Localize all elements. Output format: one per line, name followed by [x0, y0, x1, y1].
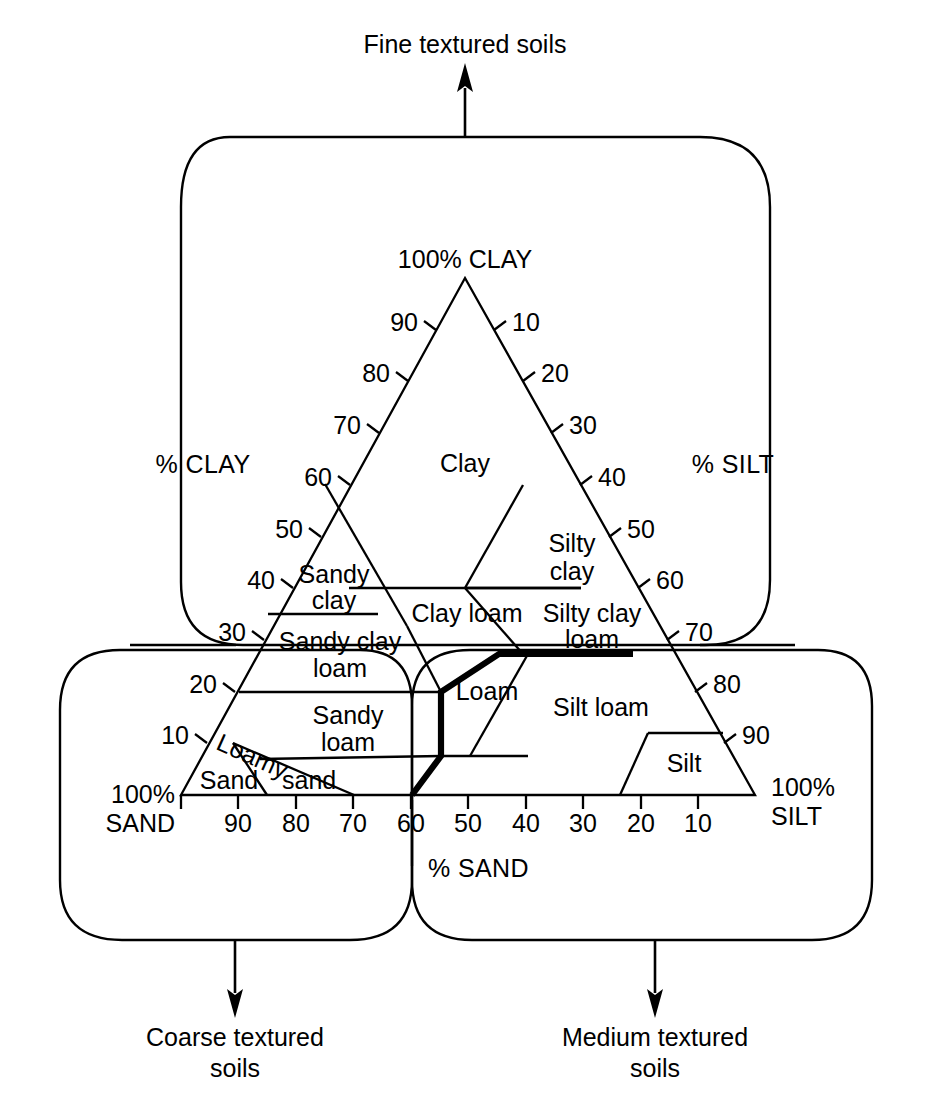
bottom-tick-label-50: 50 — [454, 809, 482, 837]
label-sandy-clay-2: clay — [312, 586, 357, 614]
label-sandy-clay-loam-2: loam — [313, 654, 367, 682]
highlighted-boundary — [412, 654, 633, 795]
callout-medium-1: Medium textured — [562, 1023, 748, 1051]
right-tick-label-40: 40 — [598, 463, 626, 491]
callout-coarse-2: soils — [210, 1054, 260, 1082]
bottom-tick-label-30: 30 — [569, 809, 597, 837]
left-tick-label-80: 80 — [362, 359, 390, 387]
apex-label: 100% CLAY — [398, 245, 533, 273]
label-sandy-clay-loam-1: Sandy clay — [279, 627, 402, 655]
right-tick-80 — [695, 683, 707, 692]
right-axis-ticks — [494, 321, 736, 743]
left-tick-20 — [223, 683, 235, 692]
bottom-tick-label-20: 20 — [627, 809, 655, 837]
label-silty-clay-1: Silty — [548, 529, 596, 557]
label-loam: Loam — [456, 677, 519, 705]
triangle-outline — [181, 278, 755, 795]
label-sand: Sand — [200, 766, 258, 794]
arrow-bottom-right-head — [647, 989, 663, 1018]
left-tick-60 — [338, 476, 350, 485]
bottom-axis-ticks — [181, 795, 698, 809]
diagram-canvas: 100% CLAY 100% SAND 100% SILT % CLAY % S… — [0, 0, 933, 1106]
label-silty-clay-2: clay — [550, 557, 595, 585]
right-tick-10 — [494, 321, 506, 330]
right-tick-label-20: 20 — [541, 359, 569, 387]
arrow-top-head — [457, 63, 473, 92]
left-tick-label-20: 20 — [189, 670, 217, 698]
callout-fine-textured: Fine textured soils — [364, 30, 567, 58]
soil-texture-triangle-figure: 100% CLAY 100% SAND 100% SILT % CLAY % S… — [0, 0, 933, 1106]
label-sandy-loam-2: loam — [321, 728, 375, 756]
left-tick-label-40: 40 — [247, 566, 275, 594]
right-tick-40 — [580, 476, 592, 485]
boundary-silty-clay-diagonal — [465, 485, 523, 588]
label-loamy-sand-2: sand — [282, 766, 336, 794]
fine-medium-divider — [412, 654, 633, 795]
label-silty-clay-loam-2: loam — [565, 625, 619, 653]
left-tick-label-50: 50 — [275, 515, 303, 543]
label-clay: Clay — [440, 449, 491, 477]
callout-coarse-1: Coarse textured — [146, 1023, 324, 1051]
bottom-tick-label-80: 80 — [282, 809, 310, 837]
right-tick-30 — [551, 424, 563, 433]
left-tick-label-10: 10 — [161, 721, 189, 749]
right-corner-label-2: SILT — [771, 802, 822, 830]
right-tick-90 — [724, 734, 736, 743]
label-silt: Silt — [667, 749, 702, 777]
right-tick-label-30: 30 — [569, 411, 597, 439]
left-tick-10 — [195, 734, 207, 743]
boundary-sandy-clay-loam-right — [407, 626, 441, 692]
right-tick-50 — [609, 528, 621, 537]
bottom-tick-label-90: 90 — [224, 809, 252, 837]
left-tick-label-90: 90 — [390, 308, 418, 336]
triangle-edges — [181, 278, 755, 795]
label-silty-clay-loam-1: Silty clay — [543, 599, 642, 627]
right-tick-label-70: 70 — [685, 618, 713, 646]
arrow-bottom-left-head — [227, 989, 243, 1018]
axis-right-label: % SILT — [692, 450, 775, 478]
right-tick-label-60: 60 — [656, 566, 684, 594]
label-sandy-clay-1: Sandy — [299, 560, 370, 588]
left-tick-label-30: 30 — [218, 618, 246, 646]
callout-medium-2: soils — [630, 1054, 680, 1082]
left-tick-50 — [309, 528, 321, 537]
outer-callout-labels: Fine textured soils Coarse textured soil… — [146, 30, 748, 1082]
label-sandy-loam-1: Sandy — [313, 701, 384, 729]
label-silt-loam: Silt loam — [553, 693, 649, 721]
axis-bottom-label: % SAND — [428, 854, 529, 882]
left-tick-80 — [396, 372, 408, 381]
left-tick-label-70: 70 — [333, 411, 361, 439]
right-tick-70 — [667, 631, 679, 640]
right-tick-label-90: 90 — [742, 721, 770, 749]
right-corner-label-1: 100% — [771, 773, 835, 801]
right-tick-60 — [638, 579, 650, 588]
left-corner-label-1: 100% — [111, 780, 175, 808]
right-tick-label-80: 80 — [713, 670, 741, 698]
left-tick-30 — [252, 631, 264, 640]
left-tick-label-60: 60 — [304, 463, 332, 491]
left-tick-40 — [281, 579, 293, 588]
axis-left-label: % CLAY — [155, 450, 250, 478]
tick-marks — [181, 321, 736, 809]
left-corner-label-2: SAND — [106, 809, 175, 837]
bottom-tick-label-60: 60 — [397, 809, 425, 837]
right-tick-label-50: 50 — [627, 515, 655, 543]
left-tick-90 — [424, 321, 436, 330]
boundary-silt-left — [620, 733, 648, 795]
left-tick-70 — [367, 424, 379, 433]
bottom-tick-label-10: 10 — [684, 809, 712, 837]
label-clay-loam: Clay loam — [411, 599, 522, 627]
right-tick-label-10: 10 — [512, 308, 540, 336]
right-tick-20 — [523, 372, 535, 381]
bottom-tick-label-70: 70 — [339, 809, 367, 837]
bottom-tick-label-40: 40 — [512, 809, 540, 837]
